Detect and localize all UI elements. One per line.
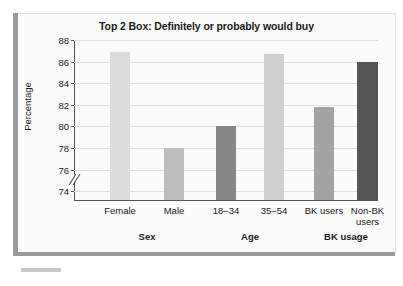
y-tick-mark bbox=[71, 126, 74, 127]
y-axis-title: Percentage bbox=[22, 57, 33, 157]
x-group-label-bk-usage: BK usage bbox=[301, 231, 391, 242]
bar-chart: Top 2 Box: Definitely or probably would … bbox=[18, 13, 395, 251]
y-tick-mark bbox=[71, 170, 74, 171]
plot-area: 7476788082848688 bbox=[74, 40, 378, 200]
y-tick-label: 88 bbox=[58, 35, 69, 46]
bar-female[interactable] bbox=[110, 52, 130, 200]
y-tick-label: 80 bbox=[58, 121, 69, 132]
y-tick-mark bbox=[71, 83, 74, 84]
caption-placeholder-bar bbox=[21, 268, 61, 272]
y-tick-label: 78 bbox=[58, 143, 69, 154]
x-category-label: Male bbox=[144, 205, 204, 216]
x-group-label-sex: Sex bbox=[102, 231, 192, 242]
x-axis-line bbox=[74, 200, 378, 201]
x-category-label: Non-BKusers bbox=[338, 205, 398, 227]
y-tick-mark bbox=[71, 62, 74, 63]
bar-bk-users[interactable] bbox=[314, 107, 334, 200]
grid-line bbox=[74, 40, 378, 41]
y-tick-mark bbox=[71, 191, 74, 192]
y-tick-mark bbox=[71, 105, 74, 106]
bar-male[interactable] bbox=[164, 148, 184, 200]
y-tick-label: 84 bbox=[58, 78, 69, 89]
y-tick-label: 74 bbox=[58, 186, 69, 197]
bar-18-34[interactable] bbox=[216, 126, 236, 200]
x-group-label-age: Age bbox=[205, 231, 295, 242]
y-tick-mark bbox=[71, 40, 74, 41]
y-tick-mark bbox=[71, 148, 74, 149]
y-tick-label: 76 bbox=[58, 164, 69, 175]
y-tick-label: 82 bbox=[58, 99, 69, 110]
bar-35-54[interactable] bbox=[264, 54, 284, 200]
y-tick-label: 86 bbox=[58, 56, 69, 67]
chart-title: Top 2 Box: Definitely or probably would … bbox=[18, 20, 395, 32]
bar-non-bk[interactable] bbox=[357, 62, 378, 200]
x-category-label: Female bbox=[90, 205, 150, 216]
